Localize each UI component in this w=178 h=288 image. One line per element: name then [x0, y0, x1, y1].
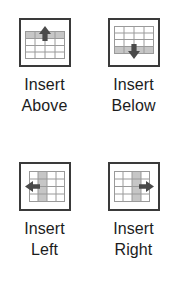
insert-right-icon-frame[interactable]: [108, 162, 160, 211]
insert-right-button[interactable]: Insert Right: [89, 144, 178, 288]
insert-right-label: Insert Right: [113, 218, 154, 260]
insert-left-button[interactable]: Insert Left: [0, 144, 89, 288]
insert-above-button[interactable]: Insert Above: [0, 0, 89, 144]
insert-right-label-line1: Insert: [113, 218, 154, 239]
insert-below-label-line1: Insert: [111, 74, 155, 95]
insert-above-label-line1: Insert: [22, 74, 68, 95]
insert-below-icon-frame[interactable]: [108, 18, 160, 67]
table-insert-column-right-icon: [114, 170, 154, 203]
table-insert-column-left-icon: [25, 170, 65, 203]
insert-above-label: Insert Above: [22, 74, 68, 116]
insert-left-label-line2: Left: [24, 239, 65, 260]
table-insert-row-below-icon: [114, 26, 154, 59]
insert-left-label: Insert Left: [24, 218, 65, 260]
insert-above-label-line2: Above: [22, 95, 68, 116]
insert-below-label-line2: Below: [111, 95, 155, 116]
insert-below-button[interactable]: Insert Below: [89, 0, 178, 144]
table-insert-row-above-icon: [25, 26, 65, 59]
insert-left-label-line1: Insert: [24, 218, 65, 239]
insert-left-icon-frame[interactable]: [19, 162, 71, 211]
insert-right-label-line2: Right: [113, 239, 154, 260]
insert-below-label: Insert Below: [111, 74, 155, 116]
insert-above-icon-frame[interactable]: [19, 18, 71, 67]
table-insert-toolbar: Insert Above: [0, 0, 178, 288]
